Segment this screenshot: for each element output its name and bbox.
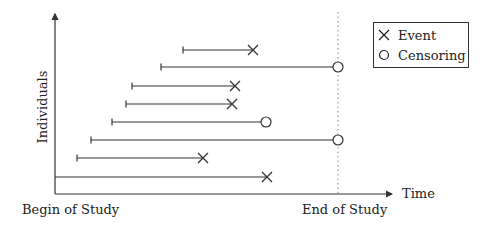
individual-6 [91, 135, 343, 145]
circle-icon [378, 49, 390, 61]
legend: Event Censoring [373, 22, 469, 68]
legend-item-censoring: Censoring [378, 46, 466, 64]
censoring-circle-icon [333, 135, 343, 145]
end-of-study-label: End of Study [302, 203, 387, 216]
individual-4 [126, 99, 237, 109]
individual-2 [161, 62, 343, 72]
legend-label-event: Event [398, 28, 436, 43]
x-axis-label: Time [402, 187, 435, 200]
individual-8 [55, 172, 272, 182]
individual-5 [112, 117, 271, 127]
individual-lines [55, 45, 343, 182]
individual-1 [183, 45, 258, 55]
censoring-circle-icon [333, 62, 343, 72]
cross-icon [378, 29, 390, 41]
y-axis-label: Individuals [36, 71, 49, 144]
censoring-circle-icon [261, 117, 271, 127]
individual-3 [132, 81, 240, 91]
legend-item-event: Event [378, 26, 436, 44]
individual-7 [77, 153, 208, 163]
begin-of-study-label: Begin of Study [22, 203, 119, 216]
legend-label-censoring: Censoring [398, 48, 466, 63]
